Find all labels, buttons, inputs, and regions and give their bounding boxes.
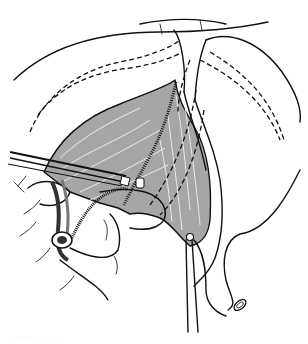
watermark-text: ·· ······ ···· ··· bbox=[8, 334, 58, 341]
anatomical-illustration bbox=[0, 0, 308, 344]
